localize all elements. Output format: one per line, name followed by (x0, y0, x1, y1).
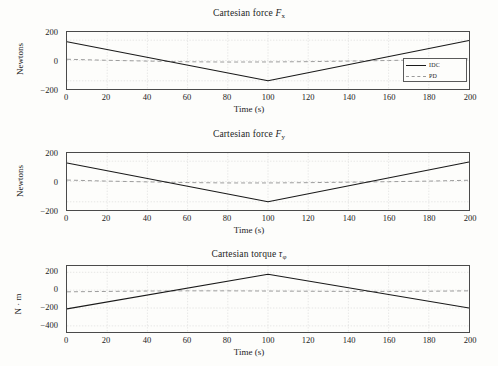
subplot-title-tau: Cartesian torque τφ (0, 249, 498, 261)
x-tick-fy-5: 100 (254, 213, 282, 223)
x-tick-fy-9: 180 (415, 213, 443, 223)
x-tick-fx-4: 80 (213, 92, 241, 102)
x-tick-fy-7: 140 (335, 213, 363, 223)
y-tick-tau-1: 0 (20, 284, 58, 294)
x-tick-fx-3: 60 (173, 92, 201, 102)
y-tick-fx-0: 200 (20, 27, 58, 37)
x-tick-tau-9: 180 (415, 335, 443, 345)
x-tick-fy-1: 20 (92, 213, 120, 223)
subplot-cartesian-force-fy: Cartesian force Fy Newtons 200 0 −200 (0, 122, 498, 244)
x-tick-fx-10: 200 (456, 92, 484, 102)
plot-area-fy (66, 152, 470, 211)
x-tick-fx-8: 160 (375, 92, 403, 102)
y-tick-fy-1: 0 (20, 177, 58, 187)
legend-fx[interactable]: IDC PD (403, 58, 467, 82)
x-tick-fy-2: 40 (133, 213, 161, 223)
plot-svg-tau (67, 266, 469, 332)
y-tick-tau-2: −200 (14, 302, 58, 312)
legend-label-idc: IDC (429, 62, 440, 68)
x-tick-fy-3: 60 (173, 213, 201, 223)
subplot-cartesian-torque-tau: Cartesian torque τφ N · m 200 0 −200 −40… (0, 240, 498, 366)
subplot-title-fx: Cartesian force Fx (0, 8, 498, 20)
x-tick-tau-2: 40 (133, 335, 161, 345)
x-tick-fx-2: 40 (133, 92, 161, 102)
y-tick-tau-3: −400 (14, 320, 58, 330)
x-tick-tau-3: 60 (173, 335, 201, 345)
x-tick-fy-8: 160 (375, 213, 403, 223)
x-tick-fx-6: 120 (294, 92, 322, 102)
subplot-cartesian-force-fx: Cartesian force Fx Newtons 200 0 −200 (0, 0, 498, 122)
x-tick-fx-5: 100 (254, 92, 282, 102)
figure-canvas: Cartesian force Fx Newtons 200 0 −200 (0, 0, 498, 366)
y-tick-tau-0: 200 (20, 266, 58, 276)
legend-entry-pd[interactable]: PD (406, 72, 463, 80)
subplot-title-fy: Cartesian force Fy (0, 129, 498, 141)
x-tick-fy-6: 120 (294, 213, 322, 223)
plot-area-tau (66, 265, 470, 333)
x-tick-fy-0: 0 (52, 213, 80, 223)
legend-swatch-pd-icon (406, 73, 426, 80)
x-tick-tau-4: 80 (213, 335, 241, 345)
x-tick-tau-7: 140 (335, 335, 363, 345)
x-tick-fx-0: 0 (52, 92, 80, 102)
x-tick-tau-8: 160 (375, 335, 403, 345)
plot-svg-fy (67, 153, 469, 210)
x-tick-fy-4: 80 (213, 213, 241, 223)
legend-label-pd: PD (429, 73, 437, 79)
x-axis-label-tau: Time (s) (0, 347, 498, 357)
x-tick-fx-7: 140 (335, 92, 363, 102)
series-line-pd-tau (67, 291, 469, 292)
legend-swatch-idc-icon (406, 62, 426, 69)
x-axis-label-fy: Time (s) (0, 225, 498, 235)
x-tick-tau-6: 120 (294, 335, 322, 345)
x-tick-fy-10: 200 (456, 213, 484, 223)
x-tick-tau-5: 100 (254, 335, 282, 345)
y-tick-fx-1: 0 (20, 56, 58, 66)
x-tick-tau-10: 200 (456, 335, 484, 345)
x-axis-label-fx: Time (s) (0, 104, 498, 114)
x-tick-fx-1: 20 (92, 92, 120, 102)
legend-entry-idc[interactable]: IDC (406, 61, 463, 69)
y-tick-fy-0: 200 (20, 148, 58, 158)
x-tick-tau-0: 0 (52, 335, 80, 345)
x-tick-fx-9: 180 (415, 92, 443, 102)
x-tick-tau-1: 20 (92, 335, 120, 345)
plot-area-fx: IDC PD (66, 31, 470, 90)
